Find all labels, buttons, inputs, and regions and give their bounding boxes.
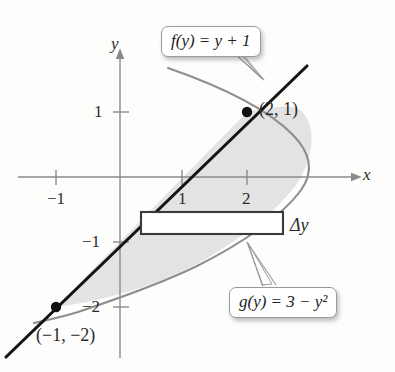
delta-y-label: Δy [290, 216, 309, 234]
callout-line-f: f(y) = y + 1 [161, 26, 261, 57]
callout-line-text: f(y) = y + 1 [171, 31, 251, 50]
math-figure: y x −1 1 2 1 −1 −2 (2, 1) (−1, −2) Δy f(… [0, 0, 395, 372]
parabola-callout-tail [247, 242, 276, 286]
point-label-upper: (2, 1) [259, 100, 298, 118]
point-marker-upper [242, 107, 252, 117]
y-tick-label-neg2: −2 [82, 298, 100, 315]
y-axis [113, 58, 129, 358]
y-axis-label: y [111, 35, 119, 52]
y-tick-label-neg1: −1 [82, 233, 100, 250]
point-marker-lower [51, 302, 61, 312]
point-label-lower: (−1, −2) [36, 326, 95, 344]
representative-rectangle [141, 212, 283, 234]
x-tick-label-2: 2 [242, 190, 251, 207]
y-tick-label-1: 1 [94, 103, 103, 120]
callout-parabola-text: g(y) = 3 − y² [239, 292, 327, 311]
x-tick-label-1: 1 [178, 190, 187, 207]
callout-parabola-g: g(y) = 3 − y² [229, 287, 337, 318]
x-axis-label: x [363, 166, 371, 183]
x-tick-label-neg1: −1 [47, 190, 65, 207]
